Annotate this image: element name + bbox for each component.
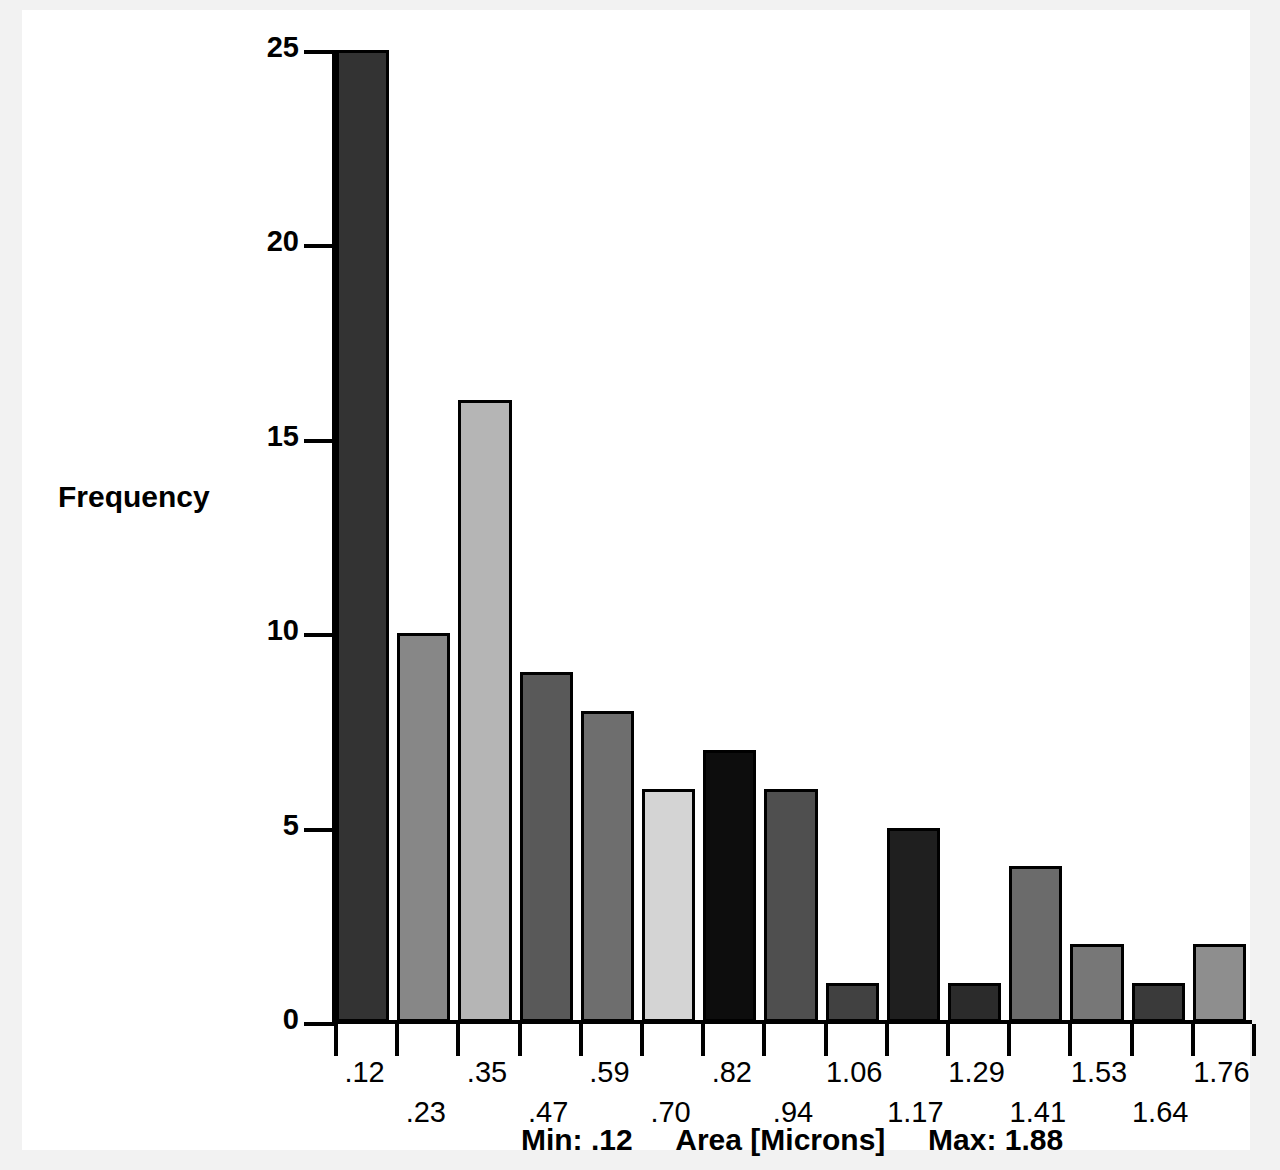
y-tick-label: 25 xyxy=(267,31,299,64)
y-tick-label: 20 xyxy=(267,225,299,258)
histogram-bar xyxy=(887,828,940,1022)
y-tick-mark xyxy=(304,50,337,54)
y-tick-mark xyxy=(304,1022,337,1026)
x-tick-mark xyxy=(762,1024,766,1056)
y-tick-mark xyxy=(304,244,337,248)
y-tick-label: 15 xyxy=(267,420,299,453)
histogram-bar xyxy=(458,400,511,1022)
x-tick-label: 1.29 xyxy=(948,1056,1004,1089)
x-tick-label: .82 xyxy=(712,1056,752,1089)
caption-min-label: Min: .12 xyxy=(521,1123,633,1157)
histogram-bar xyxy=(1070,944,1123,1022)
x-tick-label: 1.76 xyxy=(1193,1056,1249,1089)
x-tick-mark xyxy=(518,1024,522,1056)
histogram-bar xyxy=(397,633,450,1022)
x-tick-label: .59 xyxy=(589,1056,629,1089)
histogram-bar xyxy=(336,50,389,1022)
histogram-bar xyxy=(1132,983,1185,1022)
y-tick-label: 10 xyxy=(267,614,299,647)
histogram-bar xyxy=(948,983,1001,1022)
histogram-bar xyxy=(642,789,695,1022)
chart-canvas: 0510152025 .12.23.35.47.59.70.82.941.061… xyxy=(22,10,1250,1150)
histogram-bar xyxy=(764,789,817,1022)
x-axis-caption: Min: .12 Area [Microns] Max: 1.88 xyxy=(332,1123,1252,1157)
histogram-bar xyxy=(520,672,573,1022)
histogram-bar xyxy=(703,750,756,1022)
y-tick-mark xyxy=(304,439,337,443)
y-axis-title: Frequency xyxy=(58,480,210,514)
x-tick-mark xyxy=(824,1024,828,1056)
x-tick-mark xyxy=(1007,1024,1011,1056)
x-tick-mark xyxy=(1068,1024,1072,1056)
histogram-bar xyxy=(826,983,879,1022)
histogram-bar xyxy=(1193,944,1246,1022)
x-tick-label: 1.06 xyxy=(826,1056,882,1089)
x-tick-mark xyxy=(1191,1024,1195,1056)
x-tick-mark xyxy=(885,1024,889,1056)
x-tick-mark xyxy=(946,1024,950,1056)
y-tick-label: 5 xyxy=(283,809,299,842)
x-tick-label: .35 xyxy=(467,1056,507,1089)
x-tick-mark xyxy=(395,1024,399,1056)
histogram-bar xyxy=(1009,866,1062,1022)
y-tick-mark xyxy=(304,633,337,637)
x-tick-mark xyxy=(1252,1024,1256,1056)
x-tick-mark xyxy=(456,1024,460,1056)
x-tick-mark xyxy=(334,1024,338,1056)
x-axis-title: Area [Microns] xyxy=(675,1123,885,1157)
x-tick-mark xyxy=(640,1024,644,1056)
x-tick-label: .12 xyxy=(344,1056,384,1089)
y-tick-label: 0 xyxy=(283,1003,299,1036)
x-tick-mark xyxy=(701,1024,705,1056)
histogram-bar xyxy=(581,711,634,1022)
x-tick-mark xyxy=(579,1024,583,1056)
x-tick-mark xyxy=(1130,1024,1134,1056)
x-tick-label: 1.53 xyxy=(1071,1056,1127,1089)
y-tick-mark xyxy=(304,828,337,832)
page-background: 0510152025 .12.23.35.47.59.70.82.941.061… xyxy=(0,0,1280,1170)
caption-max-label: Max: 1.88 xyxy=(928,1123,1063,1157)
